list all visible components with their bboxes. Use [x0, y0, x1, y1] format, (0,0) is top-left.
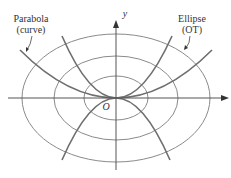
y-axis-arrow-icon — [113, 20, 119, 28]
orthogonal-trajectories-diagram: Parabola (curve) Ellipse (OT) y O — [0, 0, 231, 178]
ellipse-label: Ellipse (OT) — [170, 13, 214, 35]
parabola-up-narrow — [62, 36, 172, 98]
x-axis-arrow-icon — [221, 95, 229, 101]
parabola-label-title: Parabola — [8, 13, 54, 24]
parabola-label: Parabola (curve) — [8, 13, 54, 35]
ellipse-label-sub: (OT) — [170, 24, 214, 35]
ellipse-pointer — [186, 36, 190, 48]
parabola-label-sub: (curve) — [8, 24, 54, 35]
y-axis-label: y — [121, 8, 129, 19]
parabola-pointer — [27, 36, 32, 50]
origin-label: O — [101, 101, 111, 112]
ellipse-label-title: Ellipse — [170, 13, 214, 24]
